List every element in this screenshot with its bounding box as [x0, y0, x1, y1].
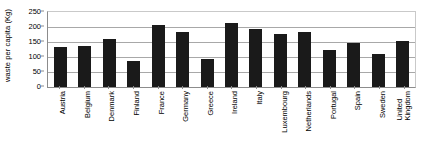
x-tick-label: Denmark — [108, 91, 116, 121]
x-tick-mark — [256, 86, 257, 89]
x-tick-label: UnitedKingdom — [396, 91, 412, 121]
bar — [249, 29, 262, 88]
bar-slot — [293, 12, 317, 87]
bar-slot — [170, 12, 194, 87]
plot-area — [47, 11, 416, 88]
x-tick-label: Italy — [256, 91, 264, 105]
x-tick-label: Belgium — [84, 91, 92, 118]
x-tick-label: France — [158, 91, 166, 114]
x-tick-label: Greece — [207, 91, 215, 116]
bar-slot — [317, 12, 341, 87]
x-tick-mark — [281, 86, 282, 89]
x-label-slot: Belgium — [72, 89, 97, 153]
bar-chart: waste per capita (Kg) 050100150200250 Au… — [0, 0, 424, 155]
x-tick-mark — [379, 86, 380, 89]
bar — [372, 54, 385, 87]
bar-slot — [342, 12, 366, 87]
x-label-slot: Greece — [195, 89, 220, 153]
bar-slot — [195, 12, 219, 87]
y-axis-tick-labels: 050100150200250 — [14, 0, 44, 92]
x-tick-label: Austria — [59, 91, 67, 114]
x-label-slot: Finland — [121, 89, 146, 153]
bar — [54, 47, 67, 88]
bar-slot — [391, 12, 415, 87]
x-label-slot: Netherlands — [293, 89, 318, 153]
bar — [152, 25, 165, 87]
x-tick-mark — [108, 86, 109, 89]
x-tick-mark — [133, 86, 134, 89]
bar-slot — [97, 12, 121, 87]
bar-slot — [244, 12, 268, 87]
bar-slot — [146, 12, 170, 87]
bar — [274, 34, 287, 87]
x-tick-label: Portugal — [330, 91, 338, 119]
bar-slot — [48, 12, 72, 87]
x-tick-label: Sweden — [379, 91, 387, 118]
bar — [298, 32, 311, 87]
x-tick-mark — [59, 86, 60, 89]
bar-slot — [72, 12, 96, 87]
x-label-slot: Luxembourg — [268, 89, 293, 153]
x-tick-mark — [404, 86, 405, 89]
x-tick-mark — [158, 86, 159, 89]
y-tick-label: 250 — [28, 7, 41, 16]
x-label-slot: Italy — [244, 89, 269, 153]
bar-slot — [366, 12, 390, 87]
bar — [127, 61, 140, 87]
x-tick-mark — [354, 86, 355, 89]
bar — [225, 23, 238, 87]
bar — [78, 46, 91, 87]
bar-series — [48, 12, 415, 87]
x-tick-label: Germany — [182, 91, 190, 122]
bar — [176, 32, 189, 87]
x-tick-mark — [84, 86, 85, 89]
x-tick-label: Netherlands — [305, 91, 313, 131]
y-axis-title-text: waste per capita (Kg) — [3, 9, 12, 82]
x-label-slot: Germany — [170, 89, 195, 153]
x-label-slot: Portugal — [318, 89, 343, 153]
x-label-slot: Ireland — [219, 89, 244, 153]
x-tick-mark — [231, 86, 232, 89]
x-label-slot: Austria — [47, 89, 72, 153]
y-tick-mark — [41, 41, 44, 42]
x-tick-mark — [182, 86, 183, 89]
bar-slot — [219, 12, 243, 87]
x-tick-label: Finland — [133, 91, 141, 116]
y-tick-label: 200 — [28, 22, 41, 31]
x-label-slot: Spain — [342, 89, 367, 153]
bar — [103, 39, 116, 87]
bar — [323, 50, 336, 87]
x-label-slot: UnitedKingdom — [391, 89, 416, 153]
y-tick-label: 100 — [28, 52, 41, 61]
y-axis-title: waste per capita (Kg) — [0, 0, 14, 90]
x-tick-mark — [330, 86, 331, 89]
x-tick-label: Luxembourg — [281, 91, 289, 133]
bar-slot — [268, 12, 292, 87]
y-tick-mark — [41, 86, 44, 87]
x-tick-mark — [305, 86, 306, 89]
y-tick-mark — [41, 26, 44, 27]
y-tick-mark — [41, 56, 44, 57]
x-tick-label: Spain — [354, 91, 362, 110]
y-tick-mark — [41, 71, 44, 72]
y-tick-label: 50 — [33, 67, 41, 76]
y-tick-label: 150 — [28, 37, 41, 46]
bar — [396, 41, 409, 87]
x-tick-mark — [207, 86, 208, 89]
x-label-slot: Sweden — [367, 89, 392, 153]
bar-slot — [121, 12, 145, 87]
x-tick-label-line: Kingdom — [404, 91, 412, 121]
x-label-slot: Denmark — [96, 89, 121, 153]
bar — [201, 59, 214, 87]
x-axis-tick-labels: AustriaBelgiumDenmarkFinlandFranceGerman… — [47, 89, 416, 153]
y-tick-mark — [41, 11, 44, 12]
bar — [347, 43, 360, 87]
x-label-slot: France — [145, 89, 170, 153]
x-tick-label: Ireland — [231, 91, 239, 114]
